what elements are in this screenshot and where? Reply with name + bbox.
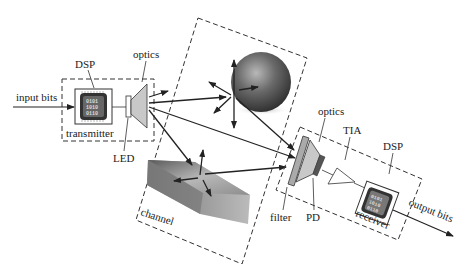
label-input-bits: input bits — [16, 91, 57, 103]
label-tx-optics: optics — [133, 48, 159, 60]
receiver-block: 0101 1010 0110 output bits optics TIA DS… — [270, 105, 455, 240]
led-icon — [126, 96, 131, 117]
label-pd: PD — [306, 211, 320, 223]
sphere-reflector-icon — [231, 52, 291, 112]
label-tx-dsp: DSP — [75, 58, 95, 70]
label-filter: filter — [270, 211, 292, 223]
diagram-canvas: input bits 0101 1010 0110 DSP transmitte… — [0, 0, 465, 264]
tx-dsp-chip-icon: 0101 1010 0110 — [75, 89, 112, 124]
channel-block: channel — [136, 18, 307, 264]
svg-text:0110: 0110 — [86, 111, 98, 117]
label-transmitter: transmitter — [66, 127, 114, 139]
label-rx-dsp: DSP — [383, 140, 403, 152]
channel-dashed-box — [136, 18, 307, 264]
transmitter-block: input bits 0101 1010 0110 DSP transmitte… — [13, 48, 159, 164]
label-output-bits: output bits — [407, 196, 455, 225]
tia-amplifier-icon — [328, 168, 355, 184]
label-tia: TIA — [343, 124, 361, 136]
label-channel: channel — [139, 205, 175, 227]
tx-optics-lens-icon — [131, 84, 147, 128]
label-led: LED — [113, 152, 134, 164]
label-rx-optics: optics — [318, 105, 344, 117]
